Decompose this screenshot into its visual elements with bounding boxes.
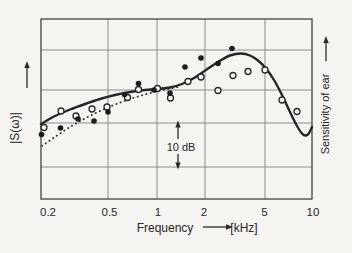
data-point-filled [167, 90, 173, 96]
data-point-open [279, 97, 285, 103]
data-point-open [58, 108, 64, 114]
data-point-open [104, 104, 110, 110]
x-tick-0-5: 0.5 [102, 206, 118, 218]
data-point-filled [122, 92, 128, 98]
data-point-filled [182, 64, 188, 70]
data-point-open [215, 88, 221, 94]
data-point-open [230, 73, 236, 79]
data-point-open [294, 109, 300, 115]
y-axis-label-right: Sensitivity of ear [319, 73, 331, 154]
y-right-axis-arrow-head [323, 36, 328, 43]
data-point-filled [39, 132, 45, 138]
data-point-open [89, 106, 95, 112]
data-point-filled [151, 87, 157, 93]
data-point-filled [91, 118, 97, 124]
x-tick-5: 5 [261, 206, 267, 218]
y-axis-label-left: |S(ω)| [8, 112, 22, 144]
data-point-filled [58, 125, 64, 131]
data-point-open [41, 125, 47, 131]
x-axis-unit: [kHz] [230, 221, 257, 235]
data-point-open [262, 67, 268, 73]
data-point-filled [75, 116, 81, 122]
x-axis-label: Frequency [137, 221, 194, 235]
x-tick-2: 2 [201, 206, 207, 218]
plot-frame [41, 19, 312, 199]
data-point-filled [198, 55, 204, 61]
y-left-axis-arrow-head [24, 61, 29, 68]
data-point-filled [229, 46, 235, 52]
data-point-open [136, 87, 142, 93]
x-tick-10: 10 [307, 206, 320, 218]
db-marker-arrow-up-head [175, 121, 180, 128]
plot-layers [24, 19, 328, 230]
db-marker-arrow-down-head [175, 163, 180, 170]
data-point-filled [105, 109, 111, 115]
x-tick-0-2: 0.2 [40, 206, 56, 218]
db-scale-marker-label: 10 dB [167, 141, 196, 153]
data-point-open [168, 95, 174, 101]
data-point-filled [136, 81, 142, 87]
scanned-figure: |S(ω)| Sensitivity of ear Frequency [kHz… [0, 0, 352, 253]
data-point-filled [215, 61, 221, 67]
data-point-open [185, 79, 191, 85]
x-tick-1: 1 [155, 206, 161, 218]
data-point-open [198, 74, 204, 80]
ear-sensitivity-chart: |S(ω)| Sensitivity of ear Frequency [kHz… [0, 0, 352, 253]
data-point-open [245, 69, 251, 75]
